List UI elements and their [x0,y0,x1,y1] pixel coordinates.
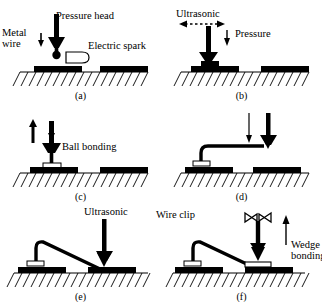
panel-f: Wire clip Wedge bonding (f) [161,201,322,302]
bold-down-arrow [251,247,265,261]
panel-b-caption: (b) [161,90,322,101]
ultrasonic-label: Ultrasonic [84,207,128,218]
wire-clip [245,213,271,222]
up-arrow [29,119,37,143]
spark-electrode [66,52,89,63]
wedge-bond [245,262,271,267]
pressure-down-arrow [224,30,230,46]
ball-bond [43,163,61,168]
metal-wire-label: Metal wire [2,28,36,49]
ball-bond [184,261,201,266]
substrate-hatched [174,173,309,187]
bond-pad-right [253,167,301,173]
ball-bond [193,161,210,166]
panel-e-drawing [0,201,161,302]
panel-f-caption: (f) [161,291,322,302]
up-arrow [283,215,290,245]
wire-bonding-figure: Metal wire Pressure head Electric spark … [0,0,322,302]
wire-clip-label: Wire clip [156,210,195,221]
ball-bond [201,61,219,66]
bond-pad-left [175,267,223,273]
panel-d: (d) [161,101,322,202]
pressure-head-label: Pressure head [56,11,114,22]
bond-pad-left [34,66,82,72]
panel-e-caption: (e) [0,291,161,302]
pressure-label: Pressure [235,29,271,40]
panel-d-drawing [161,101,322,202]
down-arrow-wire [38,33,44,47]
panel-e: Ultrasonic (e) [0,201,161,302]
wire-ball [52,51,60,59]
wedge-bonding-label: Wedge bonding [291,240,321,261]
bond-pad-left [185,167,233,173]
capillary-tool [199,26,218,61]
electric-spark-label: Electric spark [88,41,146,52]
bond-pad-right [261,66,309,72]
bond-pad-right [100,167,148,173]
wire-arc [193,242,253,267]
bond-pad-left [191,66,239,72]
bond-pad-left [18,267,66,273]
panel-a-caption: (a) [0,90,161,101]
thin-down-arrow [246,113,252,143]
substrate-hatched [174,72,309,86]
capillary-tool [42,121,61,165]
substrate-hatched [13,173,148,187]
substrate-hatched [166,273,309,287]
panel-b: Ultrasonic Pressure (b) [161,0,322,101]
ball-bonding-label: Ball bonding [62,142,117,153]
bold-down-arrow [97,253,111,267]
ultrasonic-label: Ultrasonic [176,9,220,20]
substrate-hatched [13,72,148,86]
wire-arc [36,242,100,269]
substrate-hatched [7,273,150,287]
panel-c: Ball bonding (c) [0,101,161,202]
ball-bond [27,261,44,266]
ultrasonic-dashed-double-arrow [179,21,225,28]
bond-pad-right [100,66,148,72]
panel-a: Metal wire Pressure head Electric spark … [0,0,161,101]
